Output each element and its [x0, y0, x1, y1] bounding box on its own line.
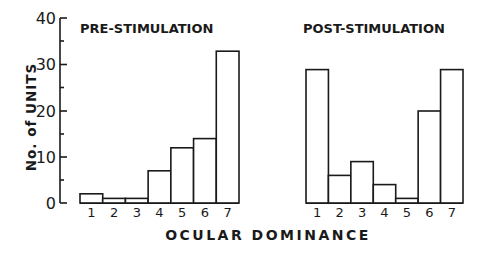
- y-axis-label: No. of UNITS: [23, 63, 39, 171]
- post-stimulation-x-tick-labels: 1234567: [313, 205, 456, 220]
- post-x-tick-6: 6: [425, 205, 433, 220]
- pre-x-tick-3: 3: [133, 205, 141, 220]
- pre-bar-3: [125, 198, 148, 203]
- pre-stimulation-title: PRE-STIMULATION: [80, 21, 213, 36]
- post-x-tick-2: 2: [336, 205, 344, 220]
- post-bar-3: [351, 162, 373, 203]
- pre-bar-2: [103, 198, 126, 203]
- post-x-tick-1: 1: [313, 205, 321, 220]
- post-bar-2: [328, 175, 350, 203]
- post-x-tick-3: 3: [358, 205, 366, 220]
- pre-bar-5: [171, 148, 194, 203]
- y-axis: [60, 18, 67, 203]
- post-x-tick-4: 4: [380, 205, 388, 220]
- post-bar-5: [396, 198, 418, 203]
- post-x-tick-7: 7: [448, 205, 456, 220]
- post-bar-4: [373, 185, 395, 203]
- y-tick-0: 0: [46, 194, 56, 213]
- y-tick-40: 40: [36, 9, 56, 28]
- pre-bar-1: [80, 194, 103, 203]
- pre-stimulation-x-tick-labels: 1234567: [87, 205, 232, 220]
- post-x-tick-5: 5: [403, 205, 411, 220]
- pre-x-tick-5: 5: [178, 205, 186, 220]
- pre-bar-7: [216, 51, 239, 203]
- post-bar-1: [306, 70, 328, 203]
- pre-x-tick-6: 6: [201, 205, 209, 220]
- post-bar-6: [418, 111, 440, 203]
- x-axis-label: OCULAR DOMINANCE: [165, 227, 371, 243]
- post-stimulation-bars: [306, 70, 463, 203]
- post-bar-7: [441, 70, 463, 203]
- pre-x-tick-1: 1: [87, 205, 95, 220]
- pre-x-tick-7: 7: [224, 205, 232, 220]
- pre-x-tick-4: 4: [155, 205, 163, 220]
- post-stimulation-title: POST-STIMULATION: [303, 21, 445, 36]
- pre-bar-4: [148, 171, 171, 203]
- pre-bar-6: [194, 139, 217, 203]
- pre-x-tick-2: 2: [110, 205, 118, 220]
- pre-stimulation-bars: [80, 51, 239, 203]
- ocular-dominance-histograms: 40 30 20 10 0 No. of UNITS PRE-STIMULATI…: [0, 0, 486, 253]
